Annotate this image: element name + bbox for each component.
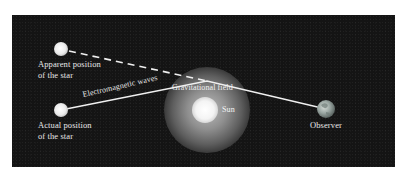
apparent-star-icon [54, 42, 68, 56]
gravitational-field-label: Gravitational field [172, 82, 233, 93]
actual-star-icon [54, 103, 68, 117]
sun-label: Sun [222, 104, 235, 115]
sun-icon [192, 97, 218, 123]
observer-earth-icon [317, 100, 335, 118]
observer-label: Observer [310, 120, 342, 131]
diagram-panel: Apparent position of the star Actual pos… [12, 15, 395, 167]
apparent-position-label: Apparent position of the star [38, 59, 101, 81]
actual-position-label: Actual position of the star [38, 120, 92, 142]
